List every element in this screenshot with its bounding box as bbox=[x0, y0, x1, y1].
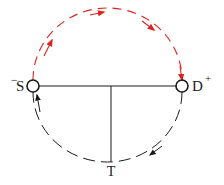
upper-arc-red bbox=[33, 8, 182, 80]
arrow-icon bbox=[37, 95, 40, 112]
source-terminal-icon bbox=[27, 80, 39, 92]
drain-label: D bbox=[192, 78, 203, 94]
arrow-icon bbox=[90, 12, 104, 15]
junction-label: T bbox=[107, 164, 116, 179]
arrow-icon bbox=[150, 146, 162, 155]
circuit-loop-diagram: − S D + T bbox=[0, 0, 224, 185]
source-node: − S bbox=[11, 73, 39, 94]
arrow-icon bbox=[142, 21, 154, 30]
drain-sign: + bbox=[205, 72, 211, 84]
drain-terminal-icon bbox=[176, 80, 188, 92]
arrow-icon bbox=[44, 40, 52, 56]
source-label: S bbox=[16, 78, 24, 94]
lower-arc-black bbox=[33, 92, 182, 162]
